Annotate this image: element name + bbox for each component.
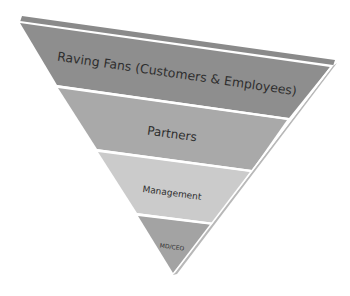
inverted-pyramid-diagram: Raving Fans (Customers & Employees) Part… [0,0,350,296]
